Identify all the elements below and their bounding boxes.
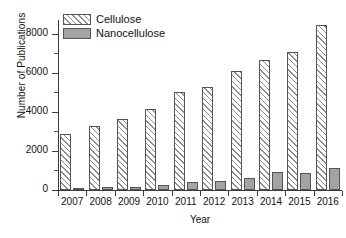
bar-nanocellulose-2007 [73, 188, 84, 190]
y-tick-label: 0 [6, 183, 48, 194]
bar-cellulose-2012 [202, 87, 213, 190]
bar-cellulose-2008 [89, 126, 100, 190]
bar-nanocellulose-2016 [329, 168, 340, 190]
x-tick-label: 2013 [228, 196, 258, 207]
bar-nanocellulose-2012 [215, 181, 226, 190]
bar-nanocellulose-2014 [272, 172, 283, 190]
bar-nanocellulose-2015 [300, 173, 311, 190]
x-tick-label: 2012 [199, 196, 229, 207]
x-axis-title: Year [55, 214, 345, 225]
publications-bar-chart: Number of Publications 02000400060008000… [0, 0, 346, 238]
legend-label-nanocellulose: Nanocellulose [96, 27, 165, 39]
y-tick-label: 4000 [6, 105, 48, 116]
bar-cellulose-2016 [316, 25, 327, 190]
x-tick-label: 2015 [284, 196, 314, 207]
bar-nanocellulose-2011 [187, 182, 198, 190]
legend-item-nanocellulose: Nanocellulose [63, 26, 203, 40]
legend-label-cellulose: Cellulose [96, 13, 141, 25]
bar-cellulose-2011 [174, 92, 185, 190]
legend-swatch-cellulose-icon [63, 14, 91, 25]
bar-cellulose-2010 [145, 109, 156, 191]
bar-nanocellulose-2013 [244, 178, 255, 190]
x-tick-label: 2009 [114, 196, 144, 207]
bars-layer [58, 18, 342, 190]
y-tick-label: 2000 [6, 144, 48, 155]
bar-cellulose-2014 [259, 60, 270, 190]
bar-nanocellulose-2009 [130, 187, 141, 190]
bar-cellulose-2013 [231, 71, 242, 190]
x-tick-label: 2011 [171, 196, 201, 207]
y-tick-label: 6000 [6, 66, 48, 77]
legend-swatch-nanocellulose-icon [63, 28, 91, 39]
bar-nanocellulose-2010 [158, 185, 169, 190]
legend-item-cellulose: Cellulose [63, 12, 203, 26]
x-tick-label: 2007 [57, 196, 87, 207]
chart-legend: Cellulose Nanocellulose [63, 12, 203, 40]
bar-nanocellulose-2008 [102, 187, 113, 190]
bar-cellulose-2015 [287, 52, 298, 190]
x-tick-label: 2008 [86, 196, 116, 207]
bar-cellulose-2009 [117, 119, 128, 190]
y-tick-label: 8000 [6, 27, 48, 38]
x-tick-label: 2016 [313, 196, 343, 207]
x-tick-label: 2010 [142, 196, 172, 207]
x-tick-mark [342, 191, 343, 196]
x-tick-label: 2014 [256, 196, 286, 207]
bar-cellulose-2007 [60, 134, 71, 190]
